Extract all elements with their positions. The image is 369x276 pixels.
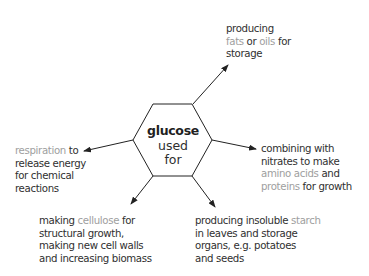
node-fats: producing fats or oils for storage xyxy=(226,23,291,61)
center-title: glucose xyxy=(133,124,213,139)
node-respiration: respiration to release energy for chemic… xyxy=(15,145,86,195)
center-line3: for xyxy=(133,153,213,168)
arrow-cellulose xyxy=(131,176,153,204)
arrow-fats xyxy=(193,65,228,104)
arrow-amino xyxy=(212,140,256,149)
node-cellulose: making cellulose for structural growth, … xyxy=(39,215,152,265)
arrow-respiration xyxy=(84,140,133,151)
node-amino-acids: combining with nitrates to make amino ac… xyxy=(261,143,352,193)
center-label: glucose used for xyxy=(133,124,213,168)
glucose-uses-diagram: glucose used for producing fats or oils … xyxy=(0,0,369,276)
arrow-starch xyxy=(192,176,215,207)
node-starch: producing insoluble starch in leaves and… xyxy=(195,215,321,265)
center-line2: used xyxy=(133,139,213,154)
